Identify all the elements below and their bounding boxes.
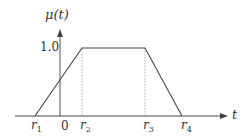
diagram-graphics: [0, 0, 242, 137]
trapezoid-curve: [35, 48, 182, 116]
y-axis-arrow-icon: [57, 29, 63, 37]
y-axis-label: μ(t): [45, 8, 69, 21]
membership-diagram: μ(t) 1.0 t 0 r1 r2 r3 r4: [0, 0, 242, 137]
x-axis-label: t: [232, 108, 237, 121]
x-axis-arrow-icon: [220, 113, 228, 119]
tick-r4: r4: [181, 119, 192, 134]
origin-label: 0: [61, 120, 69, 132]
tick-r1: r1: [31, 119, 42, 134]
plateau-label: 1.0: [40, 41, 59, 53]
tick-r2: r2: [80, 119, 91, 134]
tick-r3: r3: [143, 119, 154, 134]
